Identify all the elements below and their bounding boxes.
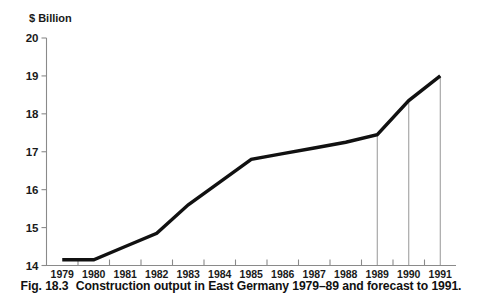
- y-tick-label: 18: [26, 108, 39, 120]
- y-tick-label: 17: [26, 146, 39, 158]
- x-tick-label: 1979: [51, 268, 75, 279]
- figure-caption: Fig. 18.3 Construction output in East Ge…: [0, 279, 482, 293]
- y-axis-title: $ Billion: [29, 12, 72, 24]
- y-axis-title-text: $ Billion: [29, 12, 72, 24]
- x-tick-label: 1990: [397, 268, 421, 279]
- forecast-drop-lines: [377, 76, 440, 266]
- figure-caption-text: Construction output in East Germany 1979…: [76, 279, 462, 293]
- x-tick-label: 1983: [177, 268, 201, 279]
- x-tick-label: 1989: [366, 268, 390, 279]
- x-tick-label: 1982: [145, 268, 169, 279]
- x-tick-label: 1980: [82, 268, 106, 279]
- data-series-line: [62, 76, 440, 260]
- x-axis-ticks: 1979198019811982198319841985198619871988…: [51, 260, 453, 280]
- x-tick-label: 1988: [334, 268, 358, 279]
- y-tick-label: 20: [26, 32, 39, 44]
- x-tick-label: 1987: [303, 268, 327, 279]
- y-tick-label: 16: [26, 184, 39, 196]
- y-tick-label: 14: [26, 260, 39, 272]
- y-tick-label: 19: [26, 70, 39, 82]
- figure-caption-number: Fig. 18.3: [21, 279, 69, 293]
- x-tick-label: 1984: [208, 268, 232, 279]
- x-tick-label: 1991: [429, 268, 453, 279]
- x-tick-label: 1985: [240, 268, 264, 279]
- y-tick-label: 15: [26, 222, 39, 234]
- figure-container: $ Billion 14151617181920 197919801981198…: [0, 0, 482, 303]
- line-chart: $ Billion 14151617181920 197919801981198…: [0, 0, 482, 279]
- x-tick-label: 1986: [271, 268, 295, 279]
- y-axis-ticks: 14151617181920: [26, 32, 47, 272]
- x-tick-label: 1981: [114, 268, 138, 279]
